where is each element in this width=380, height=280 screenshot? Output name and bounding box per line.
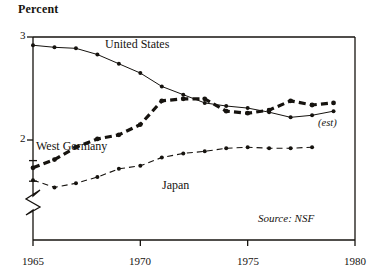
y-tick-3: 3 (20, 29, 26, 41)
est-annotation: (est) (318, 117, 337, 128)
data-point (52, 185, 56, 189)
data-point (95, 175, 99, 179)
data-point (224, 146, 228, 150)
data-point (246, 145, 250, 149)
x-tick-1970: 1970 (129, 255, 151, 267)
data-point (138, 164, 142, 168)
data-point (288, 98, 293, 103)
data-point (202, 96, 207, 101)
data-point (159, 98, 164, 103)
data-point (117, 62, 121, 66)
data-point (246, 106, 250, 110)
data-point (181, 93, 185, 97)
data-point (224, 104, 228, 108)
series-label-japan: Japan (162, 178, 189, 193)
data-point (310, 113, 314, 117)
data-point (31, 178, 35, 182)
data-point (117, 167, 121, 171)
data-point (52, 45, 56, 49)
data-point (310, 103, 315, 108)
series-label-west-germany: West Germany (36, 139, 107, 154)
data-point (289, 115, 293, 119)
x-tick-1975: 1975 (237, 255, 259, 267)
data-point (310, 145, 314, 149)
data-point (138, 71, 142, 75)
chart-figure: Percent 3 2 1965 1970 1975 1980 United S… (0, 0, 380, 280)
data-point (267, 108, 272, 113)
series-label-united-states: United States (105, 37, 169, 52)
data-point (181, 96, 186, 101)
data-point (160, 156, 164, 160)
data-point (203, 101, 207, 105)
data-point (245, 111, 250, 116)
source-note: Source: NSF (258, 212, 314, 224)
data-point (116, 132, 121, 137)
data-point (31, 43, 35, 47)
data-point (74, 46, 78, 50)
data-point (332, 109, 336, 113)
series-line-west-germany (33, 99, 334, 168)
data-point (95, 53, 99, 57)
data-point (331, 101, 336, 106)
data-point (267, 146, 271, 150)
data-point (203, 149, 207, 153)
x-tick-1965: 1965 (22, 255, 44, 267)
y-tick-2: 2 (20, 132, 26, 144)
data-point (52, 157, 57, 162)
data-point (74, 181, 78, 185)
data-point (224, 109, 229, 114)
series-line-united-states (33, 45, 334, 117)
data-point (289, 146, 293, 150)
data-point (138, 122, 143, 127)
data-point (31, 165, 36, 170)
data-point (160, 84, 164, 88)
x-tick-1980: 1980 (344, 255, 366, 267)
data-point (181, 151, 185, 155)
